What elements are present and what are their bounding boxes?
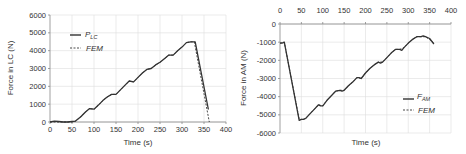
y-tick-label: 4000 [29,46,46,55]
x-tick-label: 350 [423,6,436,15]
legend: PLC FEM [70,30,103,53]
grid [280,24,451,133]
chart-force-am: 0501001502002503003504000-1000-2000-3000… [239,6,457,147]
series-lines [280,36,434,121]
x-axis-label: Time (s) [123,138,152,147]
axes [278,22,451,133]
y-tick-label: -1000 [257,38,276,47]
x-tick-label: 350 [198,125,211,134]
x-tick-label: 150 [110,125,123,134]
x-tick-label: 50 [68,125,76,134]
y-tick-label: -2000 [257,56,276,65]
y-tick-label: -6000 [257,129,276,138]
series-fem [280,37,434,120]
y-tick-label: 3000 [29,64,46,73]
y-tick-label: 2000 [29,82,46,91]
x-tick-label: 0 [278,6,282,15]
legend-label-fem: FEM [86,44,103,53]
x-tick-label: 250 [154,125,167,134]
y-tick-label: -3000 [257,74,276,83]
y-tick-label: 0 [272,20,276,29]
x-tick-label: 200 [132,125,145,134]
y-axis-label: Force in AM (N) [239,50,248,106]
figure: 0501001502002503003504000100020003000400… [0,0,466,154]
tick-labels: 0501001502002503003504000-1000-2000-3000… [257,6,457,138]
legend-label-fem: FEM [418,106,435,115]
y-tick-label: 1000 [29,100,46,109]
x-tick-label: 400 [220,125,233,134]
x-tick-label: 400 [445,6,458,15]
tick-labels: 0501001502002503003504000100020003000400… [29,11,232,134]
y-tick-label: -4000 [257,92,276,101]
y-tick-label: -5000 [257,110,276,119]
series-p-lc [50,42,208,122]
x-tick-label: 50 [297,6,305,15]
x-tick-label: 150 [338,6,351,15]
x-tick-label: 0 [48,125,52,134]
y-axis-label: Force in LC (N) [6,40,15,95]
y-tick-label: 5000 [29,28,46,37]
y-tick-label: 0 [42,118,46,127]
y-tick-label: 6000 [29,11,46,20]
x-tick-label: 300 [402,6,415,15]
x-tick-label: 250 [381,6,394,15]
legend-label-plc: PLC [85,30,97,40]
x-tick-label: 100 [88,125,101,134]
x-tick-label: 300 [176,125,189,134]
series-lines [50,42,209,122]
legend-label-fam: FAM [417,92,431,102]
x-tick-label: 100 [316,6,329,15]
x-axis-label: Time (s) [351,138,380,147]
grid [50,15,226,122]
legend: FAM FEM [403,92,435,115]
x-tick-label: 200 [359,6,372,15]
chart-force-lc: 0501001502002503003504000100020003000400… [6,11,232,147]
series-fem [50,42,209,122]
